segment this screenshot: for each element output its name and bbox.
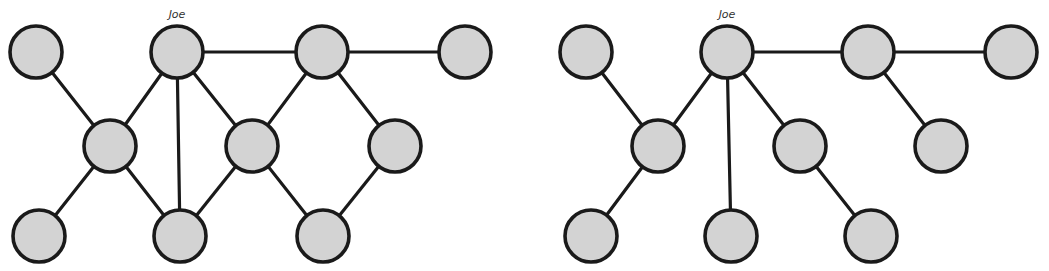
node-m3 [842, 26, 894, 78]
node-n10 [297, 210, 349, 262]
node-m10 [845, 210, 897, 262]
node-label-joe: Joe [717, 8, 736, 21]
node-m6 [774, 120, 826, 172]
node-n9 [154, 210, 206, 262]
node-m5 [632, 120, 684, 172]
node-n7 [369, 120, 421, 172]
social-network-graph: Joe [10, 8, 491, 262]
node-n1 [10, 26, 62, 78]
node-n8 [13, 210, 65, 262]
spanning-tree-graph: Joe [560, 8, 1037, 262]
node-m9 [705, 210, 757, 262]
node-n5 [84, 120, 136, 172]
node-m1 [560, 26, 612, 78]
node-m2 [701, 26, 753, 78]
node-n4 [439, 26, 491, 78]
node-n3 [296, 26, 348, 78]
node-group [10, 26, 491, 262]
node-label-joe: Joe [167, 8, 186, 21]
node-m4 [985, 26, 1037, 78]
node-group [560, 26, 1037, 262]
node-n6 [226, 120, 278, 172]
diagram-canvas: Joe Joe [0, 0, 1049, 271]
node-n2 [151, 26, 203, 78]
node-m8 [565, 210, 617, 262]
node-m7 [915, 120, 967, 172]
